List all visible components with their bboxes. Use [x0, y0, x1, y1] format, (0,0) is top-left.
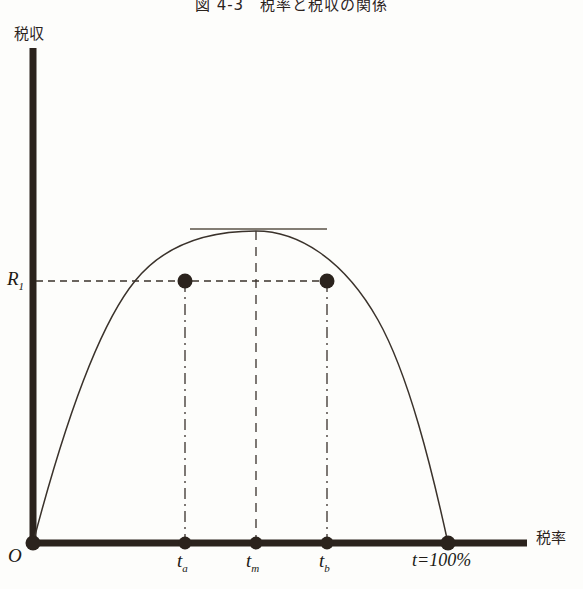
- ta-axis-point-marker: [179, 537, 192, 550]
- y-axis-label: 税収: [14, 27, 44, 42]
- origin-label: O: [8, 546, 22, 565]
- origin-point-marker: [26, 536, 41, 551]
- revenue-level-base: R: [7, 268, 19, 289]
- tick-label-tm: tm: [246, 551, 259, 574]
- tick-ta-subscript: a: [182, 562, 188, 574]
- revenue-level-subscript: 1: [19, 280, 25, 292]
- tb-curve-point-marker: [320, 274, 335, 289]
- end-label-t100: t=100%: [412, 551, 471, 569]
- ta-curve-point-marker: [178, 274, 193, 289]
- tb-axis-point-marker: [321, 537, 334, 550]
- tm-axis-point-marker: [250, 537, 263, 550]
- t100-axis-point-marker: [441, 536, 456, 551]
- tick-tm-subscript: m: [251, 562, 259, 574]
- x-axis-label: 税率: [536, 531, 566, 546]
- tick-label-tb: tb: [319, 551, 330, 574]
- chart-canvas: [0, 0, 583, 589]
- tick-label-ta: ta: [177, 551, 188, 574]
- revenue-level-label: R1: [7, 269, 24, 292]
- tick-tb-subscript: b: [324, 562, 330, 574]
- laffer-curve-figure: 図 4-3 税率と税収の関係 税収 税率 O R1 ta: [0, 0, 583, 589]
- laffer-curve: [33, 231, 448, 543]
